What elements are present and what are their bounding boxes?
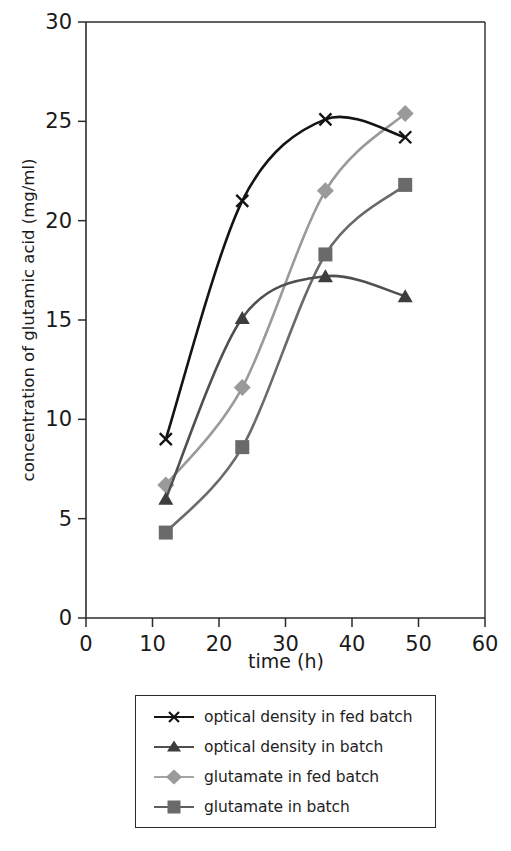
x-axis-ticks: [86, 618, 485, 627]
y-tick-label: 0: [59, 606, 72, 630]
legend-marker-x-cross-icon: [152, 708, 196, 726]
data-point-marker-triangle: [158, 492, 173, 505]
series-line: [166, 117, 405, 439]
x-tick-label: 20: [206, 632, 233, 656]
legend-item-label: glutamate in batch: [204, 798, 350, 816]
plot-frame: [86, 22, 485, 618]
y-tick-label: 10: [45, 407, 72, 431]
series-line: [166, 113, 405, 485]
data-point-marker-x-cross: [236, 195, 248, 207]
y-tick-label: 20: [45, 209, 72, 233]
chart-series: [158, 269, 412, 505]
x-tick-label: 40: [339, 632, 366, 656]
data-point-marker-square: [318, 247, 332, 261]
legend-item[interactable]: glutamate in fed batch: [152, 762, 435, 792]
y-tick-label: 5: [59, 507, 72, 531]
chart-series: [160, 113, 411, 445]
data-point-marker-diamond: [317, 182, 334, 199]
chart-series: [157, 105, 413, 494]
x-axis-label: time (h): [248, 650, 324, 672]
legend-marker-square-icon: [152, 798, 196, 816]
y-axis-tick-labels: 051015202530: [45, 10, 72, 630]
y-tick-label: 25: [45, 109, 72, 133]
chart-series: [159, 178, 412, 540]
x-tick-label: 10: [139, 632, 166, 656]
legend-item-label: optical density in fed batch: [204, 708, 413, 726]
chart-legend: optical density in fed batch optical den…: [135, 695, 436, 828]
legend-item[interactable]: optical density in fed batch: [152, 702, 435, 732]
x-tick-label: 0: [79, 632, 92, 656]
series-layer: [157, 105, 413, 540]
y-axis-label: concentration of glutamic acid (mg/ml): [19, 159, 38, 482]
legend-item[interactable]: glutamate in batch: [152, 792, 435, 822]
legend-item-label: optical density in batch: [204, 738, 383, 756]
y-tick-label: 30: [45, 10, 72, 34]
series-line: [166, 185, 405, 533]
line-chart-plot: 051015202530 0102030405060 time (h) conc…: [0, 0, 511, 700]
chart-figure: 051015202530 0102030405060 time (h) conc…: [0, 0, 511, 851]
y-tick-label: 15: [45, 308, 72, 332]
data-point-marker-square: [398, 178, 412, 192]
series-line: [166, 276, 405, 499]
data-point-marker-square: [159, 526, 173, 540]
y-axis-ticks: [78, 22, 86, 618]
legend-marker-diamond-icon: [152, 768, 196, 786]
x-tick-label: 60: [472, 632, 499, 656]
x-tick-label: 50: [405, 632, 432, 656]
data-point-marker-diamond: [234, 379, 251, 396]
data-point-marker-square: [235, 440, 249, 454]
legend-item-label: glutamate in fed batch: [204, 768, 379, 786]
legend-item[interactable]: optical density in batch: [152, 732, 435, 762]
legend-marker-triangle-icon: [152, 738, 196, 756]
legend-items-list: optical density in fed batch optical den…: [136, 696, 435, 827]
